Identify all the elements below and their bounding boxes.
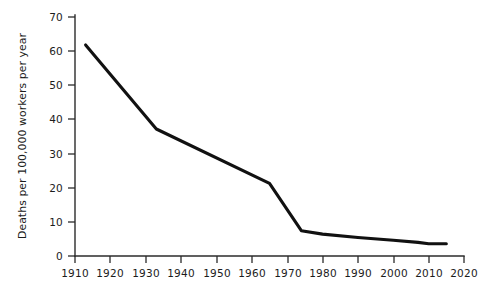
line-chart: 70 60 50 40 30 20 10 0 Deaths per 100,00… — [0, 0, 487, 292]
y-tick-label-0: 0 — [56, 250, 63, 262]
y-axis-tick-labels: 70 60 50 40 30 20 10 0 — [49, 11, 63, 262]
data-series-group — [86, 45, 447, 244]
x-tick-label-1970: 1970 — [274, 267, 302, 279]
chart-container: 70 60 50 40 30 20 10 0 Deaths per 100,00… — [0, 0, 487, 292]
x-axis-tick-labels: 1910 1920 1930 1940 1950 1960 1970 1980 … — [61, 267, 478, 279]
x-tick-label-2020: 2020 — [450, 267, 478, 279]
y-tick-label-60: 60 — [49, 45, 63, 57]
y-axis-title: Deaths per 100,000 workers per year — [16, 33, 29, 239]
y-axis-ticks — [68, 17, 75, 256]
y-tick-label-70: 70 — [49, 11, 63, 23]
y-tick-label-50: 50 — [49, 79, 63, 91]
x-tick-label-1940: 1940 — [167, 267, 195, 279]
y-tick-label-20: 20 — [49, 182, 63, 194]
x-tick-label-1930: 1930 — [132, 267, 160, 279]
x-tick-label-1990: 1990 — [344, 267, 372, 279]
x-tick-label-2010: 2010 — [415, 267, 443, 279]
x-axis-ticks — [75, 256, 464, 263]
x-tick-label-1980: 1980 — [309, 267, 337, 279]
x-tick-label-1910: 1910 — [61, 267, 89, 279]
y-tick-label-40: 40 — [49, 113, 63, 125]
x-tick-label-1950: 1950 — [203, 267, 231, 279]
x-tick-label-1920: 1920 — [96, 267, 124, 279]
y-tick-label-30: 30 — [49, 148, 63, 160]
x-axis-group: 1910 1920 1930 1940 1950 1960 1970 1980 … — [61, 256, 478, 279]
x-tick-label-2000: 2000 — [380, 267, 408, 279]
data-line-deaths-per-100000-workers — [86, 45, 447, 244]
y-axis-group: 70 60 50 40 30 20 10 0 Deaths per 100,00… — [16, 11, 75, 262]
x-tick-label-1960: 1960 — [238, 267, 266, 279]
y-tick-label-10: 10 — [49, 216, 63, 228]
